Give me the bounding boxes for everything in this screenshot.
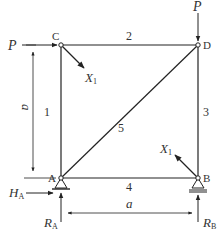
redundant-x1-c-label: X1 (84, 70, 97, 86)
reaction-ra-label: RA (43, 215, 58, 231)
member-label-4: 4 (126, 180, 132, 194)
reaction-rb-label: RB (202, 215, 216, 231)
node-a (59, 176, 63, 180)
load-p-horizontal-label: P (7, 38, 17, 53)
node-label-b: B (203, 172, 210, 184)
node-label-d: D (203, 39, 211, 51)
dimension-width: a (68, 196, 192, 213)
node-c (59, 43, 63, 47)
node-label-a: A (48, 172, 56, 184)
member-label-5: 5 (118, 121, 124, 135)
node-d (196, 43, 200, 47)
member-label-2: 2 (126, 29, 132, 43)
redundant-x1-b-arrow (175, 155, 197, 177)
node-label-c: C (52, 30, 59, 42)
dimension-width-label: a (126, 196, 133, 211)
dimension-height: a (19, 45, 56, 178)
load-p-vertical-label: P (192, 0, 202, 14)
truss-diagram: 1 2 3 4 5 a a P P X1 X1 C D A B (0, 0, 220, 236)
redundant-x1-c-arrow (62, 46, 84, 68)
redundant-x1-b-label: X1 (159, 141, 172, 157)
member-label-3: 3 (203, 105, 209, 119)
dimension-height-label: a (19, 104, 34, 111)
member-label-1: 1 (44, 105, 50, 119)
node-b (196, 176, 200, 180)
reaction-ha-label: HA (8, 185, 24, 201)
